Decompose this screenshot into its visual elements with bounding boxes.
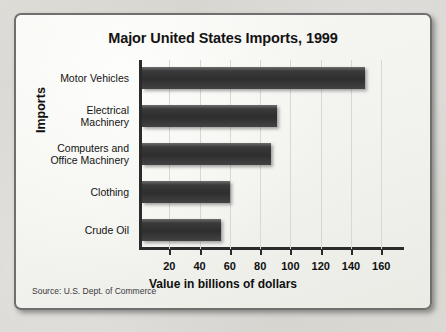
category-label: ElectricalMachinery: [17, 104, 129, 128]
gridline: [381, 60, 382, 250]
bar: [142, 219, 221, 241]
chart-frame: Major United States Imports, 1999 Import…: [14, 13, 432, 310]
bar: [142, 143, 271, 165]
x-axis-tick: [321, 249, 323, 255]
x-axis-tick: [200, 249, 202, 255]
x-axis-tick: [290, 249, 292, 255]
bar: [142, 181, 230, 203]
x-axis-tick-label: 120: [304, 260, 338, 272]
x-axis-tick-label: 160: [364, 260, 398, 272]
x-axis-line: [139, 247, 404, 250]
source-note: Source: U.S. Dept. of Commerce: [32, 286, 156, 296]
chart-title: Major United States Imports, 1999: [16, 30, 430, 46]
x-axis-tick-label: 80: [243, 260, 277, 272]
x-axis-tick: [260, 249, 262, 255]
plot-area: 20406080100120140160: [139, 60, 404, 250]
x-axis-tick: [230, 249, 232, 255]
x-axis-tick: [381, 249, 383, 255]
x-axis-tick-label: 140: [334, 260, 368, 272]
bar: [142, 67, 365, 89]
x-axis-tick-label: 100: [273, 260, 307, 272]
x-axis-tick: [351, 249, 353, 255]
x-axis-tick-label: 20: [152, 260, 186, 272]
bar: [142, 105, 277, 127]
category-label: Clothing: [17, 186, 129, 198]
x-axis-tick-label: 40: [183, 260, 217, 272]
x-axis-tick: [169, 249, 171, 255]
x-axis-tick-label: 60: [213, 260, 247, 272]
category-label: Crude Oil: [17, 224, 129, 236]
category-label: Computers andOffice Machinery: [17, 142, 129, 166]
category-label: Motor Vehicles: [17, 72, 129, 84]
